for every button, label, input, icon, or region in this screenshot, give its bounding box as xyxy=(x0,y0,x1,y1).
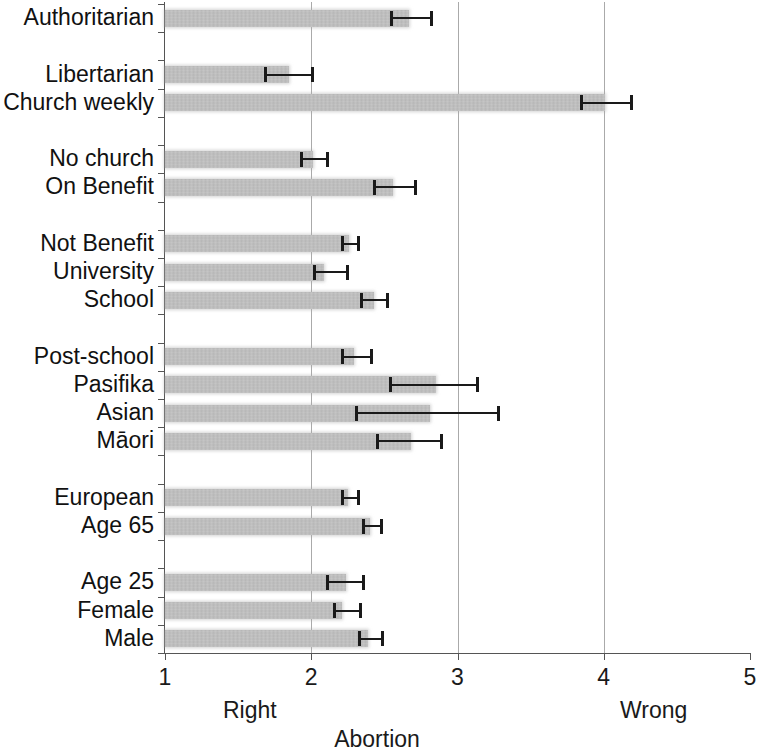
category-label: Male xyxy=(0,627,154,650)
error-bar-cap-high xyxy=(362,575,365,590)
y-tick xyxy=(158,230,165,231)
y-tick xyxy=(158,625,165,626)
error-bar-cap-high xyxy=(346,265,349,280)
x-tick-label-2: 2 xyxy=(291,664,331,691)
error-bar-cap-low xyxy=(341,490,344,505)
y-tick xyxy=(158,145,165,146)
error-bar-cap-low xyxy=(373,180,376,195)
error-bar-cap-low xyxy=(390,11,393,26)
error-bar-line xyxy=(333,610,362,612)
category-label: Māori xyxy=(0,429,154,452)
category-label: Authoritarian xyxy=(0,6,154,29)
y-tick xyxy=(158,89,165,90)
error-bar-cap-low xyxy=(358,631,361,646)
bar xyxy=(165,264,324,281)
bar xyxy=(165,10,409,27)
category-label: Not Benefit xyxy=(0,232,154,255)
error-bar-cap-low xyxy=(376,434,379,449)
bar xyxy=(165,433,411,450)
bar xyxy=(165,235,349,252)
bar xyxy=(165,574,346,591)
bar xyxy=(165,292,374,309)
y-tick xyxy=(158,60,165,61)
error-bar-line xyxy=(580,102,633,104)
error-bar-line xyxy=(373,186,417,188)
y-tick xyxy=(158,117,165,118)
error-bar-cap-low xyxy=(580,95,583,110)
error-bar-cap-high xyxy=(414,180,417,195)
error-bar-line xyxy=(360,299,389,301)
error-bar-line xyxy=(326,581,365,583)
error-bar-cap-high xyxy=(380,519,383,534)
error-bar-cap-high xyxy=(440,434,443,449)
error-bar-line xyxy=(390,17,432,19)
error-bar-cap-low xyxy=(341,349,344,364)
error-bar-cap-low xyxy=(389,377,392,392)
y-tick xyxy=(158,399,165,400)
y-tick xyxy=(158,258,165,259)
category-label: School xyxy=(0,288,154,311)
error-bar-cap-high xyxy=(630,95,633,110)
y-tick xyxy=(158,512,165,513)
x-tick-4 xyxy=(604,653,605,660)
error-bar-cap-low xyxy=(313,265,316,280)
bar xyxy=(165,518,370,535)
x-tick-label-3: 3 xyxy=(438,664,478,691)
y-tick xyxy=(158,653,165,654)
category-label: European xyxy=(0,486,154,509)
category-label: University xyxy=(0,260,154,283)
error-bar-cap-high xyxy=(381,631,384,646)
bar xyxy=(165,630,368,647)
y-tick xyxy=(158,540,165,541)
error-bar-cap-low xyxy=(341,236,344,251)
y-tick xyxy=(158,314,165,315)
category-label: Female xyxy=(0,599,154,622)
x-tick-label-4: 4 xyxy=(584,664,624,691)
x-tick-2 xyxy=(311,653,312,660)
y-tick xyxy=(158,568,165,569)
category-label: Pasifika xyxy=(0,373,154,396)
y-tick xyxy=(158,173,165,174)
y-tick xyxy=(158,597,165,598)
category-label: Age 65 xyxy=(0,514,154,537)
error-bar-cap-low xyxy=(326,575,329,590)
x-tick-label-5: 5 xyxy=(730,664,760,691)
y-tick xyxy=(158,202,165,203)
category-label: Church weekly xyxy=(0,91,154,114)
category-label: On Benefit xyxy=(0,175,154,198)
category-label: Post-school xyxy=(0,345,154,368)
x-tick-label-1: 1 xyxy=(145,664,185,691)
error-bar-line xyxy=(355,412,500,414)
error-bar-cap-low xyxy=(355,406,358,421)
error-bar-cap-high xyxy=(311,67,314,82)
y-tick xyxy=(158,455,165,456)
bar xyxy=(165,94,605,111)
x-tick-3 xyxy=(458,653,459,660)
y-tick xyxy=(158,427,165,428)
error-bar-cap-high xyxy=(357,490,360,505)
error-bar-cap-high xyxy=(476,377,479,392)
error-bar-cap-high xyxy=(357,236,360,251)
error-bar-line xyxy=(376,440,443,442)
y-tick xyxy=(158,371,165,372)
error-bar-cap-low xyxy=(333,603,336,618)
bar xyxy=(165,179,393,196)
y-tick xyxy=(158,484,165,485)
error-bar-cap-high xyxy=(497,406,500,421)
error-bar-line xyxy=(313,271,350,273)
category-label: Age 25 xyxy=(0,570,154,593)
error-bar-cap-low xyxy=(360,293,363,308)
y-tick xyxy=(158,343,165,344)
error-bar-cap-low xyxy=(264,67,267,82)
error-bar-cap-high xyxy=(326,152,329,167)
error-bar-line xyxy=(300,158,329,160)
bar xyxy=(165,489,348,506)
category-label: Libertarian xyxy=(0,63,154,86)
x-tick-1 xyxy=(165,653,166,660)
error-bar-cap-high xyxy=(386,293,389,308)
y-tick xyxy=(158,286,165,287)
error-bar-cap-high xyxy=(430,11,433,26)
bar xyxy=(165,151,313,168)
bar xyxy=(165,602,342,619)
scale-anchor-high-label: Wrong xyxy=(620,697,687,724)
